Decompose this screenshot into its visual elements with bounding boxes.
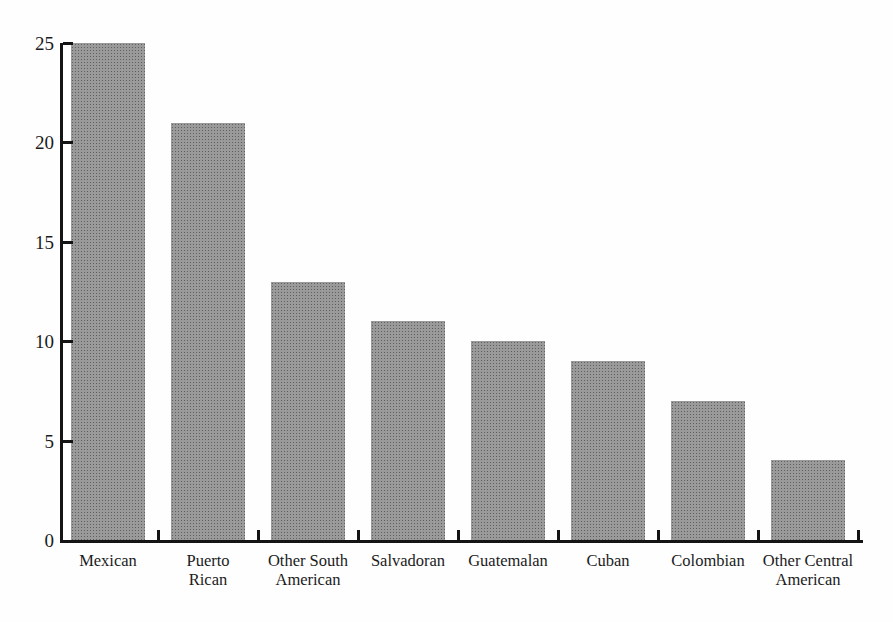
x-tick-6 <box>657 530 660 540</box>
y-tick-label-25: 25 <box>16 34 54 53</box>
x-tick-5 <box>557 530 560 540</box>
y-tick-5 <box>63 440 73 443</box>
plot-area: 0510152025MexicanPuerto RicanOther South… <box>0 0 893 622</box>
y-tick-15 <box>63 241 73 244</box>
x-axis-line <box>60 540 863 543</box>
x-tick-3 <box>357 530 360 540</box>
y-tick-label-0: 0 <box>16 531 54 550</box>
y-tick-20 <box>63 141 73 144</box>
bar-other-south-american <box>271 282 345 540</box>
bar-other-central-american <box>771 460 845 540</box>
y-tick-label-15: 15 <box>16 233 54 252</box>
bar-salvadoran <box>371 321 445 540</box>
bar-puerto-rican <box>171 123 245 540</box>
x-tick-2 <box>257 530 260 540</box>
x-tick-1 <box>157 530 160 540</box>
y-axis-line <box>60 43 63 543</box>
x-label-other-central-american: Other Central American <box>733 551 883 589</box>
bar-mexican <box>71 43 145 540</box>
bar-chart-figure: 0510152025MexicanPuerto RicanOther South… <box>0 0 893 622</box>
y-tick-label-5: 5 <box>16 432 54 451</box>
y-tick-10 <box>63 340 73 343</box>
x-tick-8 <box>857 530 860 540</box>
bar-cuban <box>571 361 645 540</box>
x-tick-4 <box>457 530 460 540</box>
y-tick-label-10: 10 <box>16 332 54 351</box>
x-tick-7 <box>757 530 760 540</box>
bar-colombian <box>671 401 745 540</box>
y-tick-25 <box>63 42 73 45</box>
y-tick-label-20: 20 <box>16 133 54 152</box>
bar-guatemalan <box>471 341 545 540</box>
